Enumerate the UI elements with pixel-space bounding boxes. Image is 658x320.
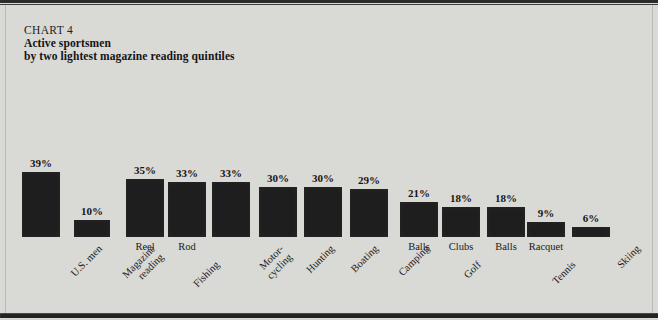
bar [168,182,206,237]
bar [304,187,342,237]
bar [126,179,164,237]
bar [572,227,610,237]
bar-value-label: 29% [340,174,398,186]
bar-value-label: 10% [64,205,120,217]
bar-value-label: 18% [477,192,535,204]
group-label: Boating [349,243,381,275]
group-label-line: Boating [349,243,381,275]
bar [442,207,480,237]
bar [259,187,297,237]
bar-sublabel: Rod [156,241,218,252]
bar [212,182,250,237]
group-label: U.S. men [69,243,105,279]
group-label: Hunting [304,243,337,276]
bar-value-label: 39% [12,157,70,169]
chart-plate: CHART 4 Active sportsmen by two lightest… [0,0,658,320]
group-label-line: Skiing [615,243,643,271]
group-label: Tennis [550,259,578,287]
bar [400,202,438,237]
bar-value-label: 6% [562,212,620,224]
group-label-line: U.S. men [69,243,105,279]
group-label: Golf [462,259,484,281]
bar-chart-plot: 39%10%35%Reel33%Rod33%30%30%29%21%Balls1… [0,0,658,320]
group-label-line: Fishing [191,259,221,289]
group-label-line: Golf [462,259,484,281]
bar [350,189,388,237]
bar [74,220,110,237]
group-label-line: Tennis [550,259,578,287]
bar [527,222,565,237]
bar-sublabel: Racquet [515,241,577,252]
bar [22,172,60,237]
group-label: Skiing [615,243,643,271]
group-label-line: Hunting [304,243,337,276]
group-label: Fishing [191,259,221,289]
group-label: Motor-cycling [256,243,294,281]
